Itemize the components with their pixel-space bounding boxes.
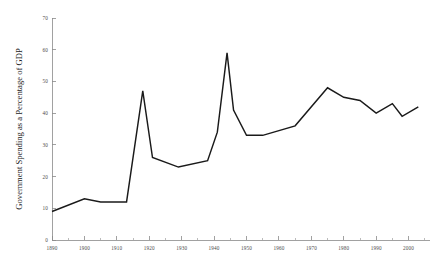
y-tick-label-70: 70 [43, 15, 49, 21]
x-tick-label-1970: 1970 [306, 245, 317, 251]
y-tick-label-50: 50 [43, 78, 49, 84]
y-axis-ticks: 70 60 50 40 30 20 10 0 [43, 15, 57, 243]
y-tick-label-0: 0 [45, 237, 48, 243]
x-tick-label-2000: 2000 [403, 245, 414, 251]
x-axis-ticks: 1890 1900 1910 1920 1930 1940 1950 1960 … [47, 236, 425, 251]
x-tick-label-1980: 1980 [338, 245, 349, 251]
y-tick-label-10: 10 [43, 205, 49, 211]
data-series-line [52, 53, 418, 212]
x-tick-label-1960: 1960 [273, 245, 284, 251]
x-tick-label-1900: 1900 [79, 245, 90, 251]
x-tick-label-1990: 1990 [371, 245, 382, 251]
x-tick-label-1940: 1940 [209, 245, 220, 251]
y-tick-label-60: 60 [43, 47, 49, 53]
y-tick-label-30: 30 [43, 142, 49, 148]
y-axis-title: Government Spending as a Percentage of G… [14, 48, 24, 210]
x-tick-label-1890: 1890 [47, 245, 58, 251]
x-tick-label-1910: 1910 [111, 245, 122, 251]
chart-container: 70 60 50 40 30 20 10 0 [0, 0, 438, 265]
y-tick-label-20: 20 [43, 174, 49, 180]
y-tick-label-40: 40 [43, 110, 49, 116]
x-tick-label-1920: 1920 [144, 245, 155, 251]
x-tick-label-1930: 1930 [176, 245, 187, 251]
x-tick-label-1950: 1950 [241, 245, 252, 251]
line-chart-plot: 70 60 50 40 30 20 10 0 [0, 0, 438, 265]
